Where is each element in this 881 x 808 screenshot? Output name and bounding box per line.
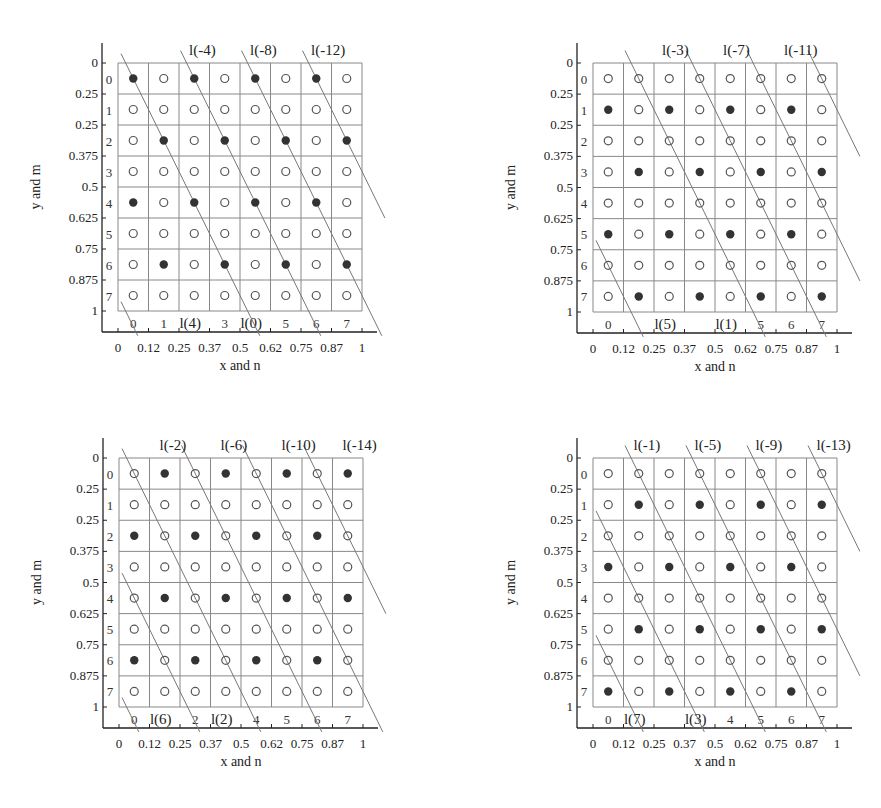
open-sample-dot (161, 501, 169, 509)
open-sample-dot (251, 106, 259, 114)
col-label: 4 (727, 712, 734, 727)
open-sample-dot (129, 292, 137, 300)
x-tick-label: 0.62 (260, 736, 283, 751)
filled-sample-dot (665, 105, 673, 113)
open-sample-dot (282, 199, 290, 207)
open-sample-dot (191, 501, 199, 509)
open-sample-dot (252, 625, 260, 633)
filled-sample-dot (665, 563, 673, 571)
line-label-top: l(-4) (189, 42, 216, 59)
open-sample-dot (604, 199, 612, 207)
y-tick-label: 0 (567, 450, 574, 465)
open-sample-dot (191, 625, 199, 633)
open-sample-dot (635, 687, 643, 695)
filled-sample-dot (130, 532, 138, 540)
diagonal-line (686, 51, 826, 337)
y-tick-label: 0.625 (70, 606, 99, 621)
open-sample-dot (665, 625, 673, 633)
x-tick-label: 0.87 (795, 736, 818, 751)
row-label: 3 (581, 165, 588, 180)
line-label-top: l(-1) (634, 437, 661, 454)
row-label: 3 (581, 560, 588, 575)
filled-sample-dot (604, 563, 612, 571)
y-tick-label: 0.25 (75, 86, 98, 101)
filled-sample-dot (129, 198, 137, 206)
x-tick-label: 0.37 (199, 736, 222, 751)
open-sample-dot (696, 563, 704, 571)
open-sample-dot (129, 168, 137, 176)
row-label: 6 (106, 258, 113, 273)
open-sample-dot (191, 687, 199, 695)
open-sample-dot (283, 625, 291, 633)
open-sample-dot (160, 168, 168, 176)
y-tick-label: 0.875 (69, 272, 98, 287)
line-label-top: l(-7) (723, 42, 750, 59)
diagonal-line (808, 51, 860, 157)
line-label-bottom: l(2) (211, 711, 233, 728)
open-sample-dot (191, 563, 199, 571)
open-sample-dot (161, 687, 169, 695)
filled-sample-dot (252, 532, 260, 540)
open-sample-dot (604, 75, 612, 83)
y-tick-label: 0.625 (544, 606, 573, 621)
diagonal-line (625, 51, 765, 337)
y-tick-label: 0.875 (544, 668, 573, 683)
diagonal-line (243, 446, 383, 732)
y-tick-label: 0.875 (544, 273, 573, 288)
open-sample-dot (160, 106, 168, 114)
y-tick-label: 1 (92, 303, 99, 318)
x-tick-label: 0.5 (232, 340, 248, 355)
filled-sample-dot (757, 500, 765, 508)
filled-sample-dot (313, 532, 321, 540)
x-tick-label: 0 (115, 340, 122, 355)
x-tick-label: 0.37 (673, 736, 696, 751)
open-sample-dot (221, 168, 229, 176)
open-sample-dot (222, 501, 230, 509)
open-sample-dot (787, 199, 795, 207)
open-sample-dot (313, 501, 321, 509)
diagonal-line (181, 51, 321, 336)
open-sample-dot (344, 687, 352, 695)
open-sample-dot (635, 106, 643, 114)
row-label: 0 (581, 72, 588, 87)
open-sample-dot (160, 292, 168, 300)
diagonal-line (747, 446, 860, 676)
diagonal-line (747, 51, 860, 281)
filled-sample-dot (283, 594, 291, 602)
row-label: 5 (581, 622, 588, 637)
open-sample-dot (787, 168, 795, 176)
open-sample-dot (635, 137, 643, 145)
x-tick-label: 0.25 (168, 340, 191, 355)
open-sample-dot (757, 532, 765, 540)
row-label: 1 (581, 498, 588, 513)
x-tick-label: 1 (834, 736, 841, 751)
x-tick-label: 1 (360, 736, 367, 751)
x-tick-label: 0.87 (321, 736, 344, 751)
x-tick-label: 1 (834, 341, 841, 356)
open-sample-dot (726, 292, 734, 300)
open-sample-dot (251, 137, 259, 145)
open-sample-dot (160, 230, 168, 238)
col-label: 7 (819, 712, 826, 727)
filled-sample-dot (282, 260, 290, 268)
open-sample-dot (129, 230, 137, 238)
diagonal-line (625, 446, 765, 732)
x-tick-label: 0.62 (734, 341, 757, 356)
open-sample-dot (818, 106, 826, 114)
filled-sample-dot (160, 136, 168, 144)
col-label: 4 (253, 712, 260, 727)
col-label: 6 (313, 316, 320, 331)
x-tick-label: 0.5 (707, 736, 723, 751)
open-sample-dot (635, 563, 643, 571)
filled-sample-dot (221, 260, 229, 268)
filled-sample-dot (343, 260, 351, 268)
open-sample-dot (787, 594, 795, 602)
open-sample-dot (251, 292, 259, 300)
open-sample-dot (787, 625, 795, 633)
y-axis-label: y and m (29, 560, 44, 605)
x-tick-label: 0 (590, 341, 597, 356)
open-sample-dot (635, 261, 643, 269)
y-tick-label: 1 (567, 699, 574, 714)
x-axis-label: x and n (694, 754, 735, 769)
filled-sample-dot (283, 469, 291, 477)
